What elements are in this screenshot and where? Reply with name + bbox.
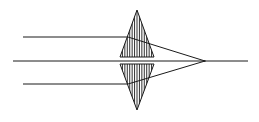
converging-lens-diagram [0, 0, 259, 122]
lower-ray [23, 61, 205, 84]
lens [120, 10, 154, 110]
focal-point [204, 60, 206, 62]
upper-ray [23, 37, 205, 61]
